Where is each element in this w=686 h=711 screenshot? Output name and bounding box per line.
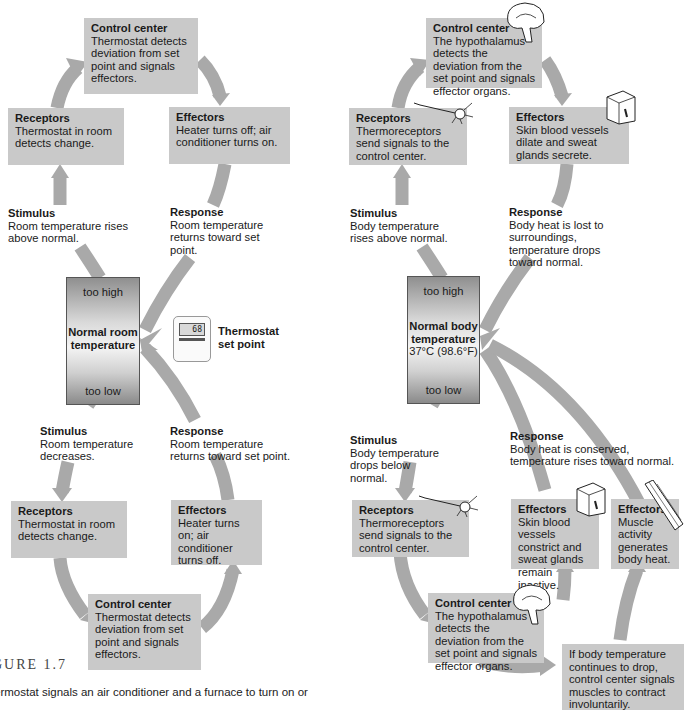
left-bottom-control-center-box: Control center Thermostat detects deviat… <box>88 594 201 670</box>
left-top-effectors-text: Heater turns off; air conditioner turns … <box>176 124 277 149</box>
left-top-response-title: Response <box>170 206 265 219</box>
skin-block-icon <box>603 89 637 125</box>
neuron-icon <box>410 95 475 125</box>
arrow-control-to-effectors <box>200 60 220 96</box>
left-normal-range-bar: too high Normal room temperature too low <box>66 277 140 405</box>
arrow-effectors-to-response <box>213 164 225 205</box>
left-top-response-text: Room temperature returns toward set poin… <box>170 219 263 256</box>
right-top-response: Response Body heat is lost to surroundin… <box>509 206 634 269</box>
left-top-stimulus: Stimulus Room temperature rises above no… <box>8 207 128 245</box>
right-normal-range-bar: too high Normal body temperature 37°C (9… <box>407 276 480 404</box>
left-top-response: Response Room temperature returns toward… <box>170 206 265 256</box>
brain-icon <box>500 0 550 44</box>
figure-caption: ermostat signals an air conditioner and … <box>0 686 308 698</box>
thermostat-display: 68 <box>179 323 205 336</box>
left-bottom-receptors-box: Receptors Thermostat in room detects cha… <box>11 501 127 558</box>
skin-block-icon-bottom <box>573 481 607 517</box>
left-bottom-response: Response Room temperature returns toward… <box>170 425 295 463</box>
left-too-high-label: too high <box>67 286 139 299</box>
thermostat-device-icon: 68 <box>173 316 211 362</box>
left-top-receptors-text: Thermostat in room detects change. <box>15 125 112 150</box>
left-top-stimulus-text: Room temperature rises above normal. <box>8 220 128 245</box>
neuron-icon-bottom <box>415 488 480 518</box>
left-top-effectors-title: Effectors <box>176 111 283 124</box>
right-bottom-response: Response Body heat is conserved, tempera… <box>510 430 680 468</box>
left-top-receptors-box: Receptors Thermostat in room detects cha… <box>8 108 124 165</box>
left-bottom-stimulus: Stimulus Room temperature decreases. <box>40 425 140 463</box>
left-normal-label: Normal room temperature <box>67 326 139 351</box>
left-top-control-center-text: Thermostat detects deviation from set po… <box>91 35 187 85</box>
right-bottom-stimulus: Stimulus Body temperature drops below no… <box>350 434 450 484</box>
left-bottom-effectors-box: Effectors Heater turns on; air condition… <box>171 500 262 565</box>
right-bottom-note-box: If body temperature continues to drop, c… <box>562 644 684 710</box>
figure-number: GURE 1.7 <box>0 657 67 673</box>
left-top-receptors-title: Receptors <box>15 112 117 125</box>
left-too-low-label: too low <box>67 385 139 398</box>
brain-icon-bottom <box>506 582 556 626</box>
left-top-control-center-box: Control center Thermostat detects deviat… <box>84 18 198 94</box>
muscle-fiber-icon <box>643 480 686 535</box>
left-top-stimulus-title: Stimulus <box>8 207 128 220</box>
left-top-control-center-title: Control center <box>91 22 191 35</box>
left-top-effectors-box: Effectors Heater turns off; air conditio… <box>169 107 290 164</box>
right-top-stimulus: Stimulus Body temperature rises above no… <box>350 207 450 245</box>
thermostat-set-point-label: Thermostat set point <box>218 325 279 350</box>
